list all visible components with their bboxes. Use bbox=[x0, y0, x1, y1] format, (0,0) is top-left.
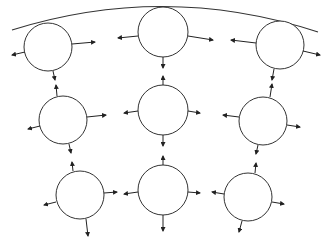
arrow-icon bbox=[86, 219, 88, 236]
cell-bot-right bbox=[212, 163, 284, 232]
arrow-icon bbox=[53, 71, 55, 80]
arrow-icon bbox=[87, 115, 106, 117]
cell-circle bbox=[138, 165, 188, 215]
arrow-icon bbox=[72, 162, 73, 171]
cell-mid-left bbox=[28, 85, 106, 153]
diagram-canvas bbox=[0, 0, 330, 247]
cell-bot-middle bbox=[124, 156, 200, 231]
arrow-icon bbox=[223, 115, 239, 117]
arrow-icon bbox=[270, 84, 272, 97]
cell-circle bbox=[138, 7, 188, 57]
cell-top-right bbox=[231, 21, 320, 80]
arrow-icon bbox=[287, 125, 300, 127]
arrow-icon bbox=[72, 42, 95, 44]
cell-top-left bbox=[12, 23, 95, 80]
cell-top-middle bbox=[118, 7, 213, 68]
arrow-icon bbox=[56, 85, 57, 96]
arrow-icon bbox=[44, 202, 56, 205]
cell-circle bbox=[24, 23, 72, 71]
arrow-icon bbox=[124, 111, 138, 113]
cell-circle bbox=[56, 171, 104, 219]
cell-circle bbox=[138, 85, 188, 135]
cell-circle bbox=[39, 96, 87, 144]
circles-layer bbox=[12, 7, 320, 236]
arrow-icon bbox=[231, 40, 256, 43]
arrow-icon bbox=[272, 202, 284, 204]
arrow-icon bbox=[256, 145, 258, 154]
arrow-icon bbox=[118, 36, 138, 38]
arrow-icon bbox=[12, 52, 25, 55]
cell-bot-left bbox=[44, 162, 117, 236]
arrow-icon bbox=[239, 221, 242, 232]
cell-mid-middle bbox=[124, 76, 200, 146]
arrow-icon bbox=[188, 192, 200, 193]
arrow-icon bbox=[69, 144, 71, 153]
arrow-icon bbox=[303, 51, 320, 55]
arrow-icon bbox=[212, 192, 224, 194]
arrow-icon bbox=[124, 192, 138, 194]
arrow-icon bbox=[28, 126, 40, 129]
cell-circle bbox=[256, 21, 304, 69]
cell-circle bbox=[239, 97, 287, 145]
arrow-icon bbox=[104, 192, 117, 193]
cell-circle bbox=[224, 173, 272, 221]
arrow-icon bbox=[188, 36, 213, 40]
arrow-icon bbox=[188, 111, 200, 113]
cell-mid-right bbox=[223, 84, 300, 154]
arrow-icon bbox=[255, 163, 256, 173]
cell-grid-diagram bbox=[0, 0, 330, 247]
arrow-icon bbox=[272, 69, 274, 80]
